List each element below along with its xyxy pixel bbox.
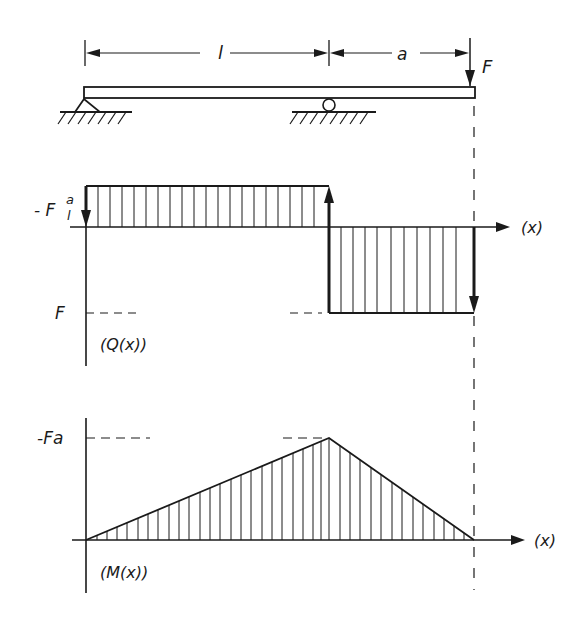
force-label: F bbox=[482, 56, 493, 77]
shear-label-bottom: F bbox=[55, 303, 65, 323]
moment-curve bbox=[86, 438, 474, 540]
dim-a-right-arrow-icon bbox=[455, 49, 469, 57]
moment-label-peak: -Fa bbox=[37, 428, 63, 448]
moment-hatch bbox=[97, 438, 464, 540]
beam-diagram: l a F bbox=[0, 0, 585, 623]
moment-x-axis-arrow-icon bbox=[511, 535, 525, 545]
shear-force-arrow-end-icon bbox=[469, 296, 479, 313]
shear-diagram: (x) bbox=[34, 186, 543, 366]
shear-axis-label: (x) bbox=[521, 218, 543, 237]
dimension-l-label: l bbox=[218, 42, 223, 63]
moment-axis-label: (x) bbox=[534, 531, 556, 550]
shear-hatch-lower bbox=[341, 227, 456, 313]
beam bbox=[84, 87, 475, 98]
force-arrow-icon bbox=[465, 70, 475, 86]
shear-hatch-upper bbox=[98, 186, 314, 227]
moment-ordinate-label: (M(x)) bbox=[100, 563, 148, 582]
dimension-a-label: a bbox=[397, 44, 407, 64]
shear-label-frac-num: a bbox=[66, 192, 74, 207]
pin-support-icon bbox=[58, 99, 132, 124]
shear-reaction-arrow-left-icon bbox=[81, 210, 91, 227]
shear-ordinate-label: (Q(x)) bbox=[100, 335, 147, 354]
dim-l-left-arrow-icon bbox=[86, 49, 100, 57]
shear-label-frac-den: l bbox=[67, 208, 71, 223]
roller-support-icon bbox=[290, 99, 376, 124]
moment-diagram: (x) bbox=[37, 418, 556, 593]
shear-x-axis-arrow-icon bbox=[496, 222, 510, 232]
shear-reaction-arrow-roller-icon bbox=[324, 186, 334, 203]
dim-a-left-arrow-icon bbox=[330, 49, 344, 57]
shear-label-top: - F bbox=[34, 200, 56, 220]
dim-l-right-arrow-icon bbox=[314, 49, 328, 57]
